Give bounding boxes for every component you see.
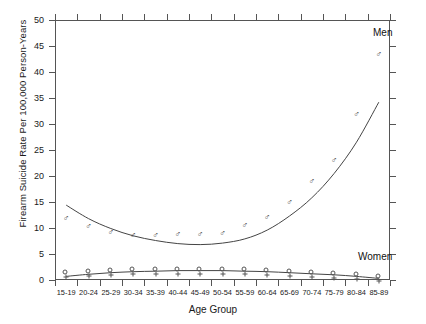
firearm-suicide-rate-chart: Firearm Suicide Rate Per 100,000 Person-… bbox=[0, 0, 426, 324]
women-data-point bbox=[219, 266, 226, 277]
men-data-point: ♂ bbox=[241, 221, 248, 230]
men-data-point: ♂ bbox=[286, 198, 293, 207]
women-data-point bbox=[241, 267, 248, 278]
men-data-point: ♂ bbox=[308, 177, 315, 186]
men-data-point: ♂ bbox=[197, 230, 204, 239]
women-data-point bbox=[130, 267, 137, 278]
women-data-point bbox=[63, 269, 70, 280]
women-data-point bbox=[85, 269, 92, 280]
men-data-point: ♂ bbox=[152, 231, 159, 240]
women-data-point bbox=[107, 268, 114, 279]
men-data-point: ♂ bbox=[107, 228, 114, 237]
women-data-point bbox=[286, 269, 293, 280]
x-axis-title: Age Group bbox=[0, 304, 426, 315]
men-data-point: ♂ bbox=[219, 229, 226, 238]
men-data-point: ♂ bbox=[353, 109, 360, 118]
men-data-point: ♂ bbox=[130, 230, 137, 239]
women-data-point bbox=[353, 272, 360, 283]
men-data-point: ♂ bbox=[174, 230, 181, 239]
men-data-point: ♂ bbox=[264, 212, 271, 221]
men-data-point: ♂ bbox=[375, 49, 382, 58]
men-series-label: Men bbox=[373, 27, 392, 38]
women-data-point bbox=[152, 266, 159, 277]
men-fit-curve bbox=[66, 102, 379, 244]
women-data-point bbox=[375, 273, 382, 284]
women-data-point bbox=[264, 268, 271, 279]
women-series-label: Women bbox=[358, 251, 392, 262]
women-data-point bbox=[197, 266, 204, 277]
women-data-point bbox=[331, 271, 338, 282]
men-data-point: ♂ bbox=[63, 213, 70, 222]
women-data-point bbox=[308, 270, 315, 281]
men-data-point: ♂ bbox=[85, 222, 92, 231]
women-data-point bbox=[174, 266, 181, 277]
men-data-point: ♂ bbox=[331, 156, 338, 165]
